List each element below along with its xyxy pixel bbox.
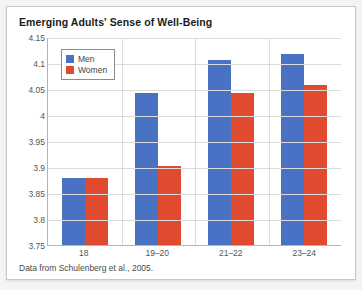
bar-women-18[interactable] bbox=[85, 178, 108, 245]
bar-men-23-24[interactable] bbox=[281, 54, 304, 245]
y-gridline bbox=[48, 246, 341, 247]
category-separator-line bbox=[195, 38, 196, 245]
y-axis-tick-label: 3.75 bbox=[9, 241, 45, 251]
y-axis-tick-label: 3.8 bbox=[9, 215, 45, 225]
x-axis-tick-label: 23–24 bbox=[268, 248, 342, 258]
category-separator-line bbox=[122, 38, 123, 245]
y-axis-tick-labels: 4.154.14.0543.953.93.853.83.75 bbox=[7, 38, 45, 246]
chart-legend: MenWomen bbox=[61, 49, 115, 80]
y-axis-tick-label: 3.85 bbox=[9, 189, 45, 199]
y-axis-tick-label: 4.15 bbox=[9, 33, 45, 43]
category-separator-line bbox=[269, 38, 270, 245]
plot-wrapper: 4.154.14.0543.953.93.853.83.75 1819–2021… bbox=[7, 7, 357, 281]
screenshot-root: Emerging Adults' Sense of Well-Being 4.1… bbox=[0, 0, 362, 290]
legend-swatch-icon bbox=[66, 55, 74, 63]
legend-entry-women[interactable]: Women bbox=[66, 65, 107, 75]
legend-label: Women bbox=[78, 65, 107, 75]
chart-card: Emerging Adults' Sense of Well-Being 4.1… bbox=[6, 6, 356, 280]
legend-label: Men bbox=[78, 54, 95, 64]
y-axis-tick-label: 4.05 bbox=[9, 85, 45, 95]
bar-women-23-24[interactable] bbox=[304, 85, 327, 245]
y-axis-tick-label: 4.1 bbox=[9, 59, 45, 69]
y-axis-tick-label: 4 bbox=[9, 111, 45, 121]
bar-women-19-20[interactable] bbox=[158, 166, 181, 245]
x-axis-tick-label: 18 bbox=[47, 248, 121, 258]
bar-men-18[interactable] bbox=[62, 178, 85, 245]
y-axis-tick-label: 3.95 bbox=[9, 137, 45, 147]
chart-source-caption: Data from Schulenberg et al., 2005. bbox=[19, 263, 153, 273]
x-axis-tick-labels: 1819–2021–2223–24 bbox=[47, 248, 341, 258]
y-axis-tick-label: 3.9 bbox=[9, 163, 45, 173]
bar-men-21-22[interactable] bbox=[208, 60, 231, 245]
x-axis-tick-label: 19–20 bbox=[121, 248, 195, 258]
legend-swatch-icon bbox=[66, 66, 74, 74]
x-axis-tick-label: 21–22 bbox=[194, 248, 268, 258]
legend-entry-men[interactable]: Men bbox=[66, 54, 107, 64]
